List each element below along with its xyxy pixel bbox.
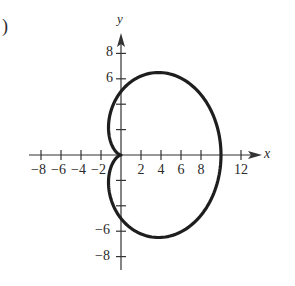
x-tick-label: −4 [71,163,86,177]
x-tick-label: 4 [158,163,165,177]
x-tick-label: −2 [91,163,106,177]
y-tick-label: 8 [106,45,113,59]
y-tick-label: −6 [95,223,110,237]
x-tick-label: 6 [178,163,185,177]
cardioid-plot [0,0,295,286]
x-tick-label: −6 [51,163,66,177]
x-tick-label: 2 [138,163,145,177]
x-tick-label: 8 [198,163,205,177]
x-tick-label: −8 [31,163,46,177]
y-tick-label: 6 [106,71,113,85]
x-tick-label: 12 [234,163,248,177]
x-axis-label: x [264,147,270,161]
y-axis-label: y [117,12,123,25]
y-tick-label: −8 [95,249,110,263]
